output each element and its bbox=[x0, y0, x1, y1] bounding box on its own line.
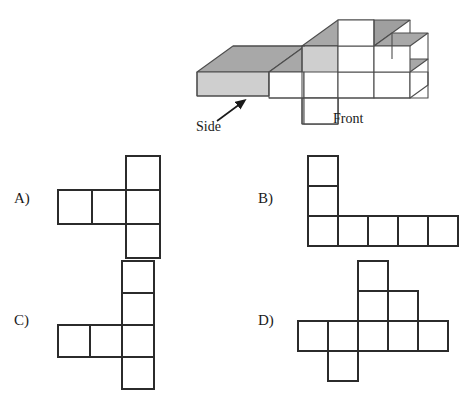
grid-square bbox=[398, 216, 428, 246]
grid-square bbox=[126, 156, 160, 190]
grid-square bbox=[298, 321, 328, 351]
grid-square bbox=[90, 325, 122, 357]
choice-b-svg bbox=[306, 154, 460, 248]
grid-square bbox=[358, 261, 388, 291]
choice-c-svg bbox=[56, 259, 156, 391]
grid-square bbox=[338, 216, 368, 246]
choice-a-svg bbox=[56, 154, 162, 260]
grid-square bbox=[122, 357, 154, 389]
grid-square bbox=[358, 291, 388, 321]
choice-d-grid bbox=[296, 259, 450, 383]
isometric-block-svg bbox=[185, 0, 430, 150]
choice-a-grid bbox=[56, 154, 162, 260]
grid-square bbox=[368, 216, 398, 246]
grid-square bbox=[58, 190, 92, 224]
grid-square bbox=[428, 216, 458, 246]
grid-square bbox=[126, 190, 160, 224]
grid-square bbox=[122, 293, 154, 325]
choice-a-letter: A) bbox=[14, 190, 30, 207]
grid-square bbox=[122, 261, 154, 293]
grid-square bbox=[92, 190, 126, 224]
front-face-r1c1 bbox=[269, 72, 304, 98]
choice-b-letter: B) bbox=[258, 190, 273, 207]
grid-square bbox=[126, 224, 160, 258]
front-face-r1c4 bbox=[374, 72, 410, 98]
grid-square bbox=[308, 156, 338, 186]
front-face-r1c2 bbox=[304, 72, 338, 98]
grid-square bbox=[358, 321, 388, 351]
side-arrow-icon bbox=[214, 96, 254, 124]
grid-square bbox=[388, 291, 418, 321]
front-label: Front bbox=[333, 111, 363, 127]
side-arm-left-face bbox=[197, 72, 269, 96]
grid-square bbox=[328, 321, 358, 351]
grid-square bbox=[122, 325, 154, 357]
grid-square bbox=[328, 351, 358, 381]
front-face-r2c3 bbox=[338, 46, 374, 72]
choice-b-grid bbox=[306, 154, 460, 248]
question-figure-page: Side Front A) B) C) D) bbox=[0, 0, 476, 398]
grid-square bbox=[58, 325, 90, 357]
choice-c-grid bbox=[56, 259, 156, 391]
front-face-r1c5 bbox=[410, 72, 428, 98]
choice-d-letter: D) bbox=[258, 312, 274, 329]
grid-square bbox=[308, 216, 338, 246]
front-face-r1c3 bbox=[338, 72, 374, 98]
isometric-block-figure bbox=[185, 0, 430, 150]
front-face-r3c3 bbox=[338, 20, 374, 46]
choice-d-svg bbox=[296, 259, 450, 383]
grid-square bbox=[418, 321, 448, 351]
grid-square bbox=[388, 321, 418, 351]
grid-square bbox=[308, 186, 338, 216]
choice-c-letter: C) bbox=[14, 312, 29, 329]
